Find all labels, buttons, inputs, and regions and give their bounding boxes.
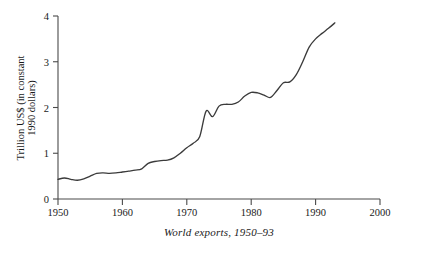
x-tick-label-1970: 1970 bbox=[176, 207, 197, 218]
data-series-world-exports bbox=[58, 23, 335, 180]
y-tick-label-3: 3 bbox=[44, 57, 49, 68]
y-tick-label-0: 0 bbox=[44, 194, 49, 205]
x-tick-label-1990: 1990 bbox=[305, 207, 326, 218]
x-axis-ticks bbox=[58, 199, 380, 205]
line-chart-canvas: 0 1 2 3 4 1950 1960 1970 1980 1990 2000 … bbox=[0, 0, 438, 254]
x-tick-label-1960: 1960 bbox=[112, 207, 133, 218]
y-axis-label: Trillion US$ (in constant 1990 dollars) bbox=[15, 55, 38, 160]
x-tick-label-1950: 1950 bbox=[48, 207, 69, 218]
chart-figure: 0 1 2 3 4 1950 1960 1970 1980 1990 2000 … bbox=[0, 0, 438, 254]
y-axis-tick-labels: 0 1 2 3 4 bbox=[44, 11, 50, 205]
x-axis-tick-labels: 1950 1960 1970 1980 1990 2000 bbox=[48, 207, 391, 218]
y-axis-label-line2: 1990 dollars) bbox=[26, 80, 38, 136]
x-tick-label-1980: 1980 bbox=[241, 207, 262, 218]
y-tick-label-4: 4 bbox=[44, 11, 50, 22]
y-tick-label-2: 2 bbox=[44, 103, 49, 114]
y-axis-ticks bbox=[53, 16, 58, 199]
y-tick-label-1: 1 bbox=[44, 148, 49, 159]
figure-caption: World exports, 1950–93 bbox=[0, 226, 438, 238]
x-tick-label-2000: 2000 bbox=[370, 207, 391, 218]
